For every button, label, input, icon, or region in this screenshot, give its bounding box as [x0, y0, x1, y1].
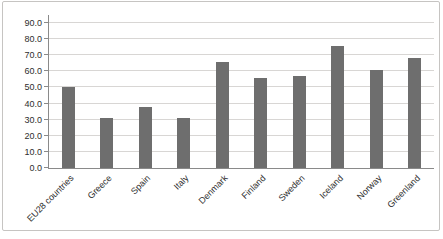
y-axis-label: 10.0 [8, 147, 42, 157]
bar-iceland [331, 46, 344, 168]
y-axis-tick [44, 70, 48, 71]
bar-finland [254, 78, 267, 168]
x-axis-label: EU28 countries [25, 173, 76, 224]
gridline-80 [49, 38, 434, 39]
y-axis-label: 30.0 [8, 115, 42, 125]
bar-eu28-countries [62, 87, 75, 168]
y-axis-label: 90.0 [8, 18, 42, 28]
y-axis-label: 80.0 [8, 34, 42, 44]
x-axis-label: Greece [86, 173, 114, 201]
x-axis-label: Greenland [385, 173, 422, 210]
y-axis-tick [44, 86, 48, 87]
bar-greece [100, 118, 113, 168]
bar-sweden [293, 76, 306, 168]
y-axis-tick [44, 167, 48, 168]
chart-frame: 0.010.020.030.040.050.060.070.080.090.0E… [2, 1, 440, 231]
y-axis-label: 40.0 [8, 99, 42, 109]
gridline-70 [49, 54, 434, 55]
plot-area: 0.010.020.030.040.050.060.070.080.090.0E… [48, 15, 434, 169]
y-axis-tick [44, 38, 48, 39]
y-axis-tick [44, 22, 48, 23]
bar-norway [370, 70, 383, 168]
gridline-90 [49, 22, 434, 23]
y-axis-tick [44, 103, 48, 104]
y-axis-label: 70.0 [8, 50, 42, 60]
y-axis-tick [44, 54, 48, 55]
x-axis-label: Denmark [196, 173, 229, 206]
y-axis-label: 20.0 [8, 131, 42, 141]
y-axis-label: 50.0 [8, 82, 42, 92]
bar-denmark [216, 62, 229, 168]
x-axis-label: Spain [129, 173, 152, 196]
x-axis-label: Finland [240, 173, 268, 201]
y-axis-label: 0.0 [8, 163, 42, 173]
x-axis-label: Italy [172, 173, 191, 192]
bar-spain [139, 107, 152, 168]
chart-screenshot: 0.010.020.030.040.050.060.070.080.090.0E… [0, 0, 443, 239]
y-axis-tick [44, 119, 48, 120]
bar-italy [177, 118, 190, 168]
x-axis-label: Sweden [276, 173, 306, 203]
bar-greenland [408, 58, 421, 168]
y-axis-tick [44, 151, 48, 152]
y-axis-tick [44, 135, 48, 136]
y-axis-label: 60.0 [8, 66, 42, 76]
x-axis-label: Iceland [317, 173, 345, 201]
x-axis-label: Norway [355, 173, 384, 202]
